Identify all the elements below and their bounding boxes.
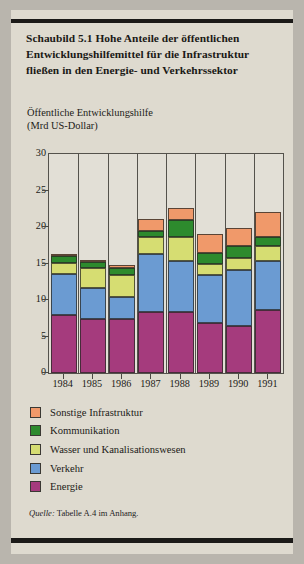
source-text: Tabelle A.4 im Anhang. — [55, 508, 139, 518]
legend-swatch-icon — [30, 444, 41, 455]
y-axis-caption-line1: Öffentliche Entwicklungshilfe — [27, 106, 267, 119]
x-tick-label: 1989 — [199, 378, 219, 389]
bar-segment — [255, 310, 281, 373]
bar-segment — [109, 297, 135, 319]
legend-label: Verkehr — [50, 463, 84, 474]
source-note: Quelle: Tabelle A.4 im Anhang. — [29, 508, 139, 518]
page-title: Schaubild 5.1 Hohe Anteile der öffentlic… — [26, 30, 276, 79]
legend-item: Verkehr — [30, 459, 270, 478]
chart-legend: Sonstige InfrastrukturKommunikationWasse… — [30, 403, 270, 496]
bar-segment — [168, 237, 194, 261]
legend-item: Energie — [30, 477, 270, 496]
y-axis-caption: Öffentliche Entwicklungshilfe (Mrd US-Do… — [27, 106, 267, 133]
bar-segment — [80, 262, 106, 268]
bar-segment — [226, 228, 252, 246]
legend-item: Kommunikation — [30, 422, 270, 441]
legend-item: Wasser und Kanalisationswesen — [30, 440, 270, 459]
legend-swatch-icon — [30, 407, 41, 418]
bar-segment — [138, 237, 164, 254]
legend-swatch-icon — [30, 463, 41, 474]
legend-item: Sonstige Infrastruktur — [30, 403, 270, 422]
x-tick-label: 1986 — [111, 378, 131, 389]
y-tick-mark — [42, 226, 49, 227]
bar-column — [255, 154, 281, 373]
x-tick-label: 1988 — [169, 378, 189, 389]
bottom-rule — [11, 538, 293, 543]
y-tick-mark — [42, 372, 49, 373]
bar-segment — [80, 288, 106, 319]
x-tick-label: 1984 — [52, 378, 72, 389]
legend-label: Wasser und Kanalisationswesen — [50, 444, 186, 455]
bar-segment — [80, 260, 106, 262]
bar-segment — [51, 274, 77, 315]
source-label: Quelle: — [29, 508, 55, 518]
bar-segment — [226, 246, 252, 258]
stacked-bar-chart: 19841985198619871988198919901991 0510152… — [27, 148, 283, 380]
bar-segment — [255, 212, 281, 236]
bar-segment — [226, 270, 252, 325]
bar-segment — [226, 326, 252, 373]
bar-segment — [51, 315, 77, 373]
figure-page: Schaubild 5.1 Hohe Anteile der öffentlic… — [0, 0, 304, 564]
bar-segment — [138, 312, 164, 373]
legend-swatch-icon — [30, 425, 41, 436]
bar-segment — [80, 319, 106, 373]
bar-column — [226, 154, 252, 373]
bar-segment — [255, 246, 281, 261]
bar-column — [168, 154, 194, 373]
bar-column — [109, 154, 135, 373]
y-tick-mark — [42, 190, 49, 191]
bar-segment — [168, 312, 194, 373]
bar-segment — [51, 254, 77, 256]
bar-segment — [138, 231, 164, 238]
x-tick-label: 1991 — [257, 378, 277, 389]
bar-segment — [51, 263, 77, 274]
x-axis: 19841985198619871988198919901991 — [48, 374, 284, 390]
legend-swatch-icon — [30, 481, 41, 492]
y-tick-mark — [42, 299, 49, 300]
bar-segment — [138, 254, 164, 312]
bar-column — [51, 154, 77, 373]
x-tick-label: 1985 — [82, 378, 102, 389]
top-rule — [11, 19, 293, 23]
bar-column — [138, 154, 164, 373]
legend-label: Kommunikation — [50, 425, 119, 436]
bar-segment — [255, 261, 281, 311]
legend-label: Sonstige Infrastruktur — [50, 407, 143, 418]
y-tick-mark — [42, 263, 49, 264]
y-axis-caption-line2: (Mrd US-Dollar) — [27, 119, 267, 132]
y-tick-label: 30 — [27, 148, 46, 158]
bar-segment — [197, 264, 223, 275]
bar-column — [80, 154, 106, 373]
bar-segment — [138, 219, 164, 231]
bar-segment — [80, 268, 106, 288]
bar-segment — [168, 220, 194, 237]
bar-segment — [197, 253, 223, 265]
bar-segment — [168, 208, 194, 220]
bar-segment — [109, 319, 135, 373]
bar-segment — [197, 275, 223, 323]
x-tick-label: 1987 — [140, 378, 160, 389]
bar-segment — [255, 237, 281, 246]
x-tick-label: 1990 — [228, 378, 248, 389]
y-tick-mark — [42, 336, 49, 337]
bar-segment — [109, 275, 135, 297]
bar-segment — [109, 268, 135, 275]
bar-segment — [197, 234, 223, 252]
plot-area — [48, 153, 284, 374]
bar-segment — [197, 323, 223, 373]
bar-segment — [168, 261, 194, 313]
bar-column — [197, 154, 223, 373]
legend-label: Energie — [50, 481, 83, 492]
bar-segment — [51, 256, 77, 263]
bar-segment — [226, 258, 252, 270]
bar-segment — [109, 265, 135, 268]
